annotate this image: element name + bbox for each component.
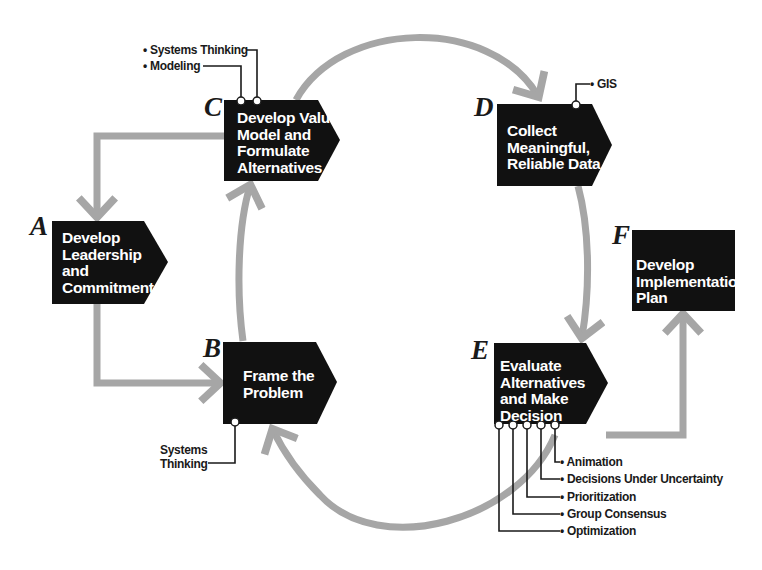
step-d-title-line: Meaningful, [507,140,600,157]
arrow-b-to-c [239,186,250,341]
step-e-title-line: Evaluate [500,358,585,375]
tool-label-b-line: Systems [160,443,208,457]
step-c-title-line: Alternatives [237,160,338,177]
tool-label-e-prioritization: • Prioritization [560,490,636,504]
step-letter-e: E [471,337,489,364]
tool-label-c-systems-thinking: • Systems Thinking [143,43,248,57]
step-d-title: Collect Meaningful, Reliable Data [507,123,600,173]
step-d-title-line: Collect [507,123,600,140]
tool-label-b-systems-thinking: Systems Thinking [160,443,208,471]
step-e-title-line: Alternatives [500,375,585,392]
step-a-title-line: and [62,263,154,280]
step-d-title-line: Reliable Data [507,156,600,173]
step-c-title-line: Formulate [237,143,338,160]
step-letter-d: D [474,94,494,121]
tool-label-b-line: Thinking [160,457,208,471]
pin-c-modeling [237,97,245,105]
step-c-title-line: Model and [237,127,338,144]
step-c-title: Develop Value Model and Formulate Altern… [237,110,338,176]
step-f-title-line: Plan [636,290,746,307]
step-e-title: Evaluate Alternatives and Make Decision [500,358,585,424]
step-f-title: Develop Implementation Plan [636,257,746,307]
step-b-title-line: Problem [243,385,314,402]
step-letter-a: A [30,213,48,240]
step-letter-c: C [204,94,222,121]
process-diagram: A B C D E F Develop Leadership and Commi… [0,0,762,570]
step-a-title: Develop Leadership and Commitment [62,230,154,296]
tool-label-e-optimization: • Optimization [560,524,636,538]
arrow-d-to-e [578,186,588,337]
step-boxes [52,100,735,424]
pin-c-systems-thinking [253,97,261,105]
step-letter-b: B [203,335,221,362]
connector-b-systems-thinking [208,422,235,463]
step-c-title-line: Develop Value [237,110,338,127]
tool-label-d-gis: • GIS [590,77,617,91]
step-a-title-line: Develop [62,230,154,247]
arrow-e-to-f [606,315,683,435]
tool-label-c-modeling: • Modeling [143,59,200,73]
step-e-title-line: Decision [500,408,585,425]
pin-d-gis [572,101,580,109]
step-f-title-line: Develop [636,257,746,274]
step-e-title-line: and Make [500,391,585,408]
arrow-c-to-a [97,136,224,216]
step-f-title-line: Implementation [636,274,746,291]
step-a-title-line: Leadership [62,247,154,264]
step-letter-f: F [612,222,630,249]
pin-b-systems-thinking [231,418,239,426]
step-b-title-line: Frame the [243,368,314,385]
connector-c-systems-thinking [247,50,257,100]
step-a-title-line: Commitment [62,280,154,297]
step-b-title: Frame the Problem [243,368,314,401]
arrow-c-to-d [296,38,538,100]
tool-label-e-decisions-under-uncertainty: • Decisions Under Uncertainty [560,472,723,486]
arrow-a-to-b [97,304,219,383]
tool-label-e-animation: • Animation [560,455,622,469]
tool-label-e-group-consensus: • Group Consensus [560,507,666,521]
